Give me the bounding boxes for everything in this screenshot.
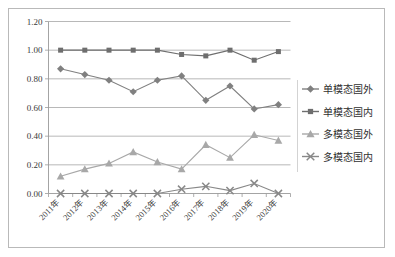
square-marker <box>107 48 112 53</box>
x-axis-tick-label: 2013年 <box>85 197 110 222</box>
square-marker <box>179 52 184 57</box>
legend-item-label: 多模态国内 <box>323 151 373 163</box>
y-axis-tick-label: 0.20 <box>27 160 43 170</box>
square-marker <box>228 48 233 53</box>
legend-item-2[interactable]: 单模态国内 <box>302 106 373 118</box>
square-marker <box>276 49 281 54</box>
x-axis-group: 2011年2012年2013年2014年2015年2016年2017年2018年… <box>37 194 291 223</box>
triangle-marker <box>250 131 258 138</box>
legend-item-3[interactable]: 多模态国外 <box>302 128 373 140</box>
y-axis-tick-label: 0.80 <box>27 74 43 84</box>
x-axis-tick-label: 2017年 <box>182 197 207 222</box>
x-axis-tick-label: 2018年 <box>206 197 231 222</box>
x-axis-tick-label: 2011年 <box>37 197 62 222</box>
legend-item-1[interactable]: 单模态国外 <box>302 83 373 95</box>
series-1 <box>57 65 282 112</box>
square-marker <box>252 58 257 63</box>
y-axis-tick-label: 1.20 <box>27 17 43 27</box>
diamond-marker <box>154 77 161 84</box>
legend-item-label: 单模态国外 <box>323 83 373 95</box>
square-marker <box>82 48 87 53</box>
diamond-marker <box>57 65 64 72</box>
x-axis-tick-label: 2014年 <box>109 197 134 222</box>
triangle-marker <box>202 141 210 148</box>
line-chart: 0.000.200.400.600.801.001.202011年2012年20… <box>0 0 395 257</box>
series-3 <box>57 131 283 180</box>
triangle-marker <box>105 160 113 167</box>
cross-marker <box>251 180 258 187</box>
legend-item-label: 多模态国外 <box>323 128 373 140</box>
diamond-marker <box>130 88 137 95</box>
square-marker <box>203 53 208 58</box>
x-axis-tick-label: 2012年 <box>61 197 86 222</box>
series-line <box>61 135 279 177</box>
y-axis-tick-label: 0.60 <box>27 103 43 113</box>
y-axis-tick-label: 0.40 <box>27 131 43 141</box>
y-axis-tick-label: 1.00 <box>27 45 43 55</box>
series-line <box>61 183 279 193</box>
x-axis-tick-label: 2019年 <box>230 197 255 222</box>
diamond-marker <box>105 77 112 84</box>
y-axis-tick-label: 0.00 <box>27 189 43 199</box>
triangle-marker <box>129 148 137 155</box>
diamond-marker <box>307 85 315 93</box>
triangle-marker <box>154 158 162 165</box>
legend: 单模态国外单模态国内多模态国外多模态国内 <box>298 80 374 172</box>
x-axis-tick-label: 2020年 <box>254 197 279 222</box>
grid-group: 0.000.200.400.600.801.001.20 <box>27 17 291 199</box>
legend-item-4[interactable]: 多模态国内 <box>302 151 373 163</box>
square-marker <box>308 109 313 114</box>
legend-item-label: 单模态国内 <box>323 106 373 118</box>
x-axis-tick-label: 2016年 <box>158 197 183 222</box>
square-marker <box>58 48 63 53</box>
square-marker <box>155 48 160 53</box>
x-axis-tick-label: 2015年 <box>133 197 158 222</box>
square-marker <box>131 48 136 53</box>
diamond-marker <box>81 71 88 78</box>
series-line <box>61 50 279 60</box>
series-line <box>61 69 279 109</box>
chart-figure: 0.000.200.400.600.801.001.202011年2012年20… <box>0 0 395 257</box>
